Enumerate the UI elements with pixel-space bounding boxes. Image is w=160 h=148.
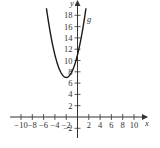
- y-tick-label: 14: [64, 33, 73, 43]
- x-tick-label: 6: [109, 120, 113, 130]
- y-axis-label: y: [69, 0, 74, 8]
- x-tick-label: −6: [39, 120, 48, 130]
- x-tick-label: −4: [50, 120, 60, 130]
- y-tick-label: 4: [68, 89, 73, 99]
- y-tick-label: 12: [64, 44, 73, 54]
- y-tick-label: 16: [64, 22, 73, 32]
- y-tick-label: 6: [68, 78, 72, 88]
- graph-of-g: −10−8−6−4−2246810 −224681012141618 x y g: [0, 0, 160, 148]
- y-tick-label: −2: [63, 123, 72, 133]
- x-tick-label: −10: [14, 120, 27, 130]
- x-tick-label: 8: [121, 120, 125, 130]
- x-tick-label: 2: [87, 120, 91, 130]
- x-axis-label: x: [144, 118, 149, 128]
- y-tick-label: 18: [64, 10, 73, 20]
- x-axis-ticks: −10−8−6−4−2246810: [14, 114, 138, 130]
- x-tick-label: −8: [28, 120, 37, 130]
- curve-label-g: g: [87, 14, 91, 24]
- x-tick-label: 4: [98, 120, 103, 130]
- y-tick-label: 2: [68, 101, 72, 111]
- y-tick-label: 10: [64, 56, 73, 66]
- x-tick-label: 10: [130, 120, 139, 130]
